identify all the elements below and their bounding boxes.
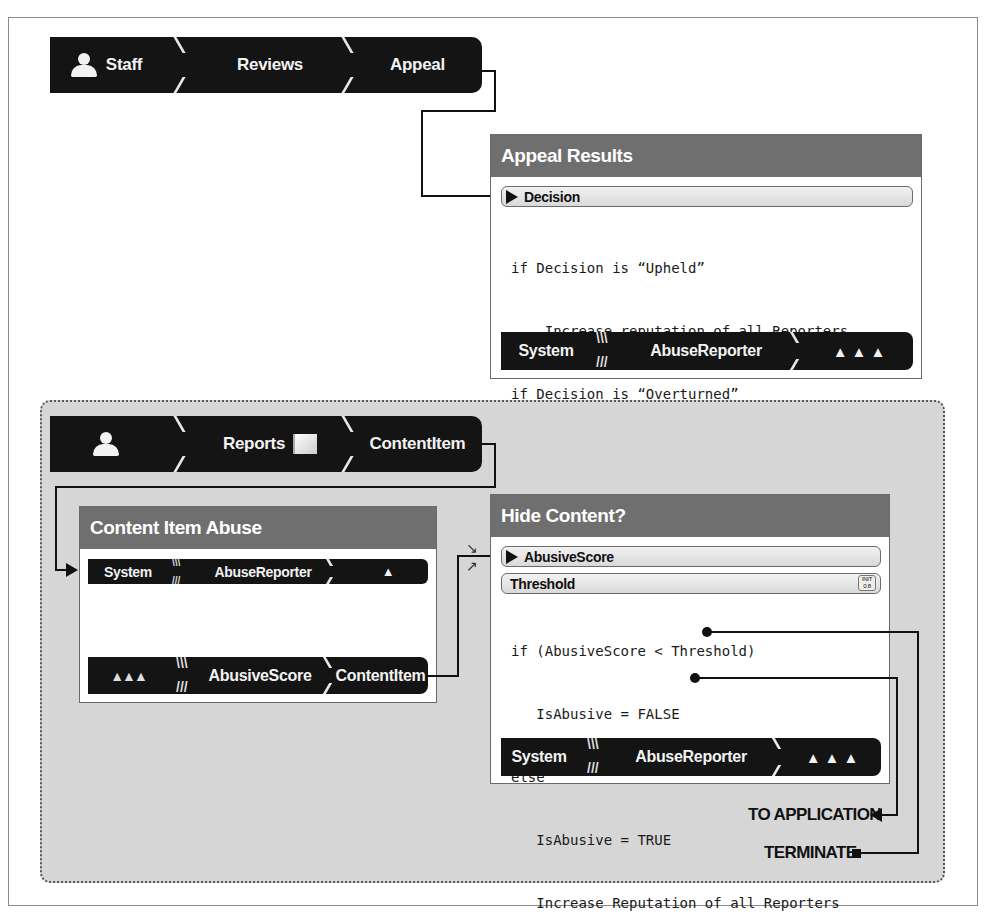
segment-appeal: Appeal: [355, 37, 480, 93]
connector-line: [427, 675, 459, 677]
decision-field: Decision: [501, 186, 913, 207]
init-badge: INIT 0.8: [858, 575, 876, 591]
arrow-left-icon: [870, 808, 882, 822]
hide-footer-bar: System \\\/// AbuseReporter ▲▲▲: [501, 738, 881, 776]
separator: [772, 738, 781, 749]
segment-system: System: [501, 738, 577, 776]
connector-line: [860, 852, 919, 854]
separator: [173, 416, 185, 432]
arrow-right-icon: [66, 563, 78, 577]
segment-contentitem: ContentItem: [333, 657, 428, 694]
connector-line: [421, 195, 501, 197]
segment-contentitem: ContentItem: [355, 416, 480, 472]
separator: [790, 359, 799, 370]
flag-icon: [293, 434, 317, 454]
separator: [173, 456, 185, 472]
reports-contentitem-bar: Reports ContentItem: [50, 416, 482, 472]
connector-line: [421, 110, 496, 112]
three-persons-icon: ▲▲▲: [789, 738, 879, 776]
segment-staff: Staff: [50, 37, 162, 93]
connector-line: [896, 677, 898, 816]
terminate-square-icon: [852, 849, 861, 858]
segment-abusereporter: AbuseReporter: [611, 738, 771, 776]
threshold-field: Threshold INIT 0.8: [501, 573, 881, 594]
to-application-label: TO APPLICATION: [748, 805, 881, 825]
separator: [173, 37, 185, 53]
segment-abusereporter: AbuseReporter: [198, 559, 328, 584]
output-bar: ▲▲▲ \\\/// AbusiveScore ContentItem: [88, 657, 428, 694]
staff-reviews-appeal-bar: Staff Reviews Appeal: [50, 37, 482, 93]
arrow-right-icon: [506, 550, 518, 564]
segment-system: System: [501, 332, 591, 370]
segment-reviews: Reviews: [190, 37, 350, 93]
abusivescore-field: AbusiveScore: [501, 546, 881, 567]
segment-reports: Reports: [190, 416, 350, 472]
connector-line: [421, 110, 423, 196]
input-bar: System \\\/// AbuseReporter ▲: [88, 559, 428, 584]
person-icon: ▲: [348, 559, 428, 584]
separator: [323, 657, 332, 668]
separator: [772, 765, 781, 776]
segment-abusivescore: AbusiveScore: [200, 657, 320, 694]
connector-line: [494, 70, 496, 112]
separator: [323, 683, 332, 694]
person-icon: [92, 432, 120, 456]
connector-line: [55, 486, 57, 571]
segment-system: System: [88, 559, 168, 584]
segment-abusereporter: AbuseReporter: [621, 332, 791, 370]
segment-user: [50, 416, 162, 472]
separator: [173, 77, 185, 93]
triple-slash-separator: \\\///: [172, 558, 180, 585]
connector-line: [710, 631, 919, 633]
triple-slash-separator: \\\///: [176, 657, 188, 693]
card-title: Hide Content?: [491, 495, 889, 537]
connector-line: [55, 486, 496, 488]
arrow-right-icon: [506, 190, 518, 204]
hide-content-card: Hide Content? AbusiveScore Threshold INI…: [490, 494, 890, 784]
three-persons-icon: ▲▲▲: [811, 332, 911, 370]
curved-arrow-icon: ↗: [466, 558, 478, 574]
content-item-abuse-card: Content Item Abuse System \\\/// AbuseRe…: [79, 506, 437, 703]
appeal-footer-bar: System \\\/// AbuseReporter ▲▲▲: [501, 332, 913, 370]
connector-line: [494, 443, 496, 488]
appeal-results-card: Appeal Results Decision if Decision is “…: [490, 134, 922, 379]
group-icon: ▲▲▲: [88, 657, 168, 694]
person-icon: [70, 53, 98, 77]
terminate-label: TERMINATE: [764, 843, 857, 863]
card-title: Appeal Results: [491, 135, 921, 177]
triple-slash-separator: \\\///: [587, 738, 599, 774]
connector-line: [457, 555, 459, 677]
separator: [790, 332, 799, 343]
connector-line: [882, 814, 898, 816]
triple-slash-separator: \\\///: [596, 332, 608, 368]
card-title: Content Item Abuse: [80, 507, 436, 549]
connector-line: [698, 677, 898, 679]
curved-arrow-icon: ↘: [466, 540, 478, 556]
segment-label: Staff: [106, 55, 142, 75]
connector-line: [917, 631, 919, 854]
